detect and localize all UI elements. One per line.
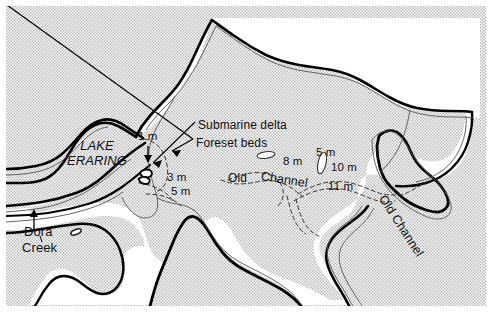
lake-name-line1: LAKE bbox=[57, 138, 137, 153]
depth-label-8m: 8 m bbox=[283, 156, 302, 168]
depth-label-10m: 10 m bbox=[331, 162, 357, 174]
depth-label-5m-west: 5 m bbox=[171, 186, 190, 198]
depth-label-1m: 1 m bbox=[138, 131, 157, 143]
lake-name-line2: ERARING bbox=[57, 153, 137, 168]
depth-label-5m-east: 5 m bbox=[316, 147, 335, 159]
depth-label-3m: 3 m bbox=[167, 172, 186, 184]
foreset-beds-label: Foreset beds bbox=[196, 137, 267, 149]
dora-label: Dora bbox=[24, 224, 53, 240]
creek-label: Creek bbox=[22, 240, 57, 256]
shoal-delta-front-2 bbox=[139, 177, 150, 184]
depth-label-11m: 11 m bbox=[328, 181, 353, 193]
old-channel-mid-word1: Old bbox=[228, 172, 247, 184]
lake-name-label: LAKE ERARING bbox=[57, 138, 137, 169]
submarine-delta-label: Submarine delta bbox=[198, 119, 287, 131]
map-figure: LAKE ERARING Submarine delta Foreset bed… bbox=[0, 0, 492, 318]
